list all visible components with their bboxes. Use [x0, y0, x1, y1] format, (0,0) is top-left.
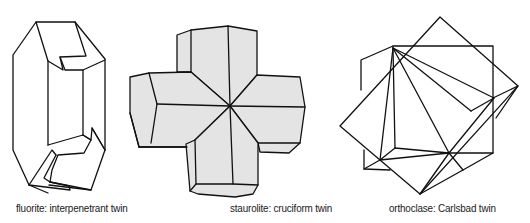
fluorite-caption: fluorite: interpenetrant twin	[16, 202, 128, 214]
staurolite-caption: staurolite: cruciform twin	[230, 202, 332, 214]
crystal-diagrams	[0, 0, 530, 223]
orthoclase-caption: orthoclase: Carlsbad twin	[389, 202, 496, 214]
orthoclase-twin-drawing	[340, 17, 518, 194]
fluorite-twin-drawing	[13, 22, 105, 193]
staurolite-twin-drawing	[130, 26, 305, 197]
